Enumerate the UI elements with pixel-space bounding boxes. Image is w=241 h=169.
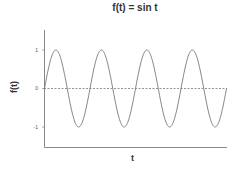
y-tick-label: -1 xyxy=(34,124,39,130)
y-tick-label: 1 xyxy=(35,47,38,53)
plot-area: 10-1 xyxy=(0,0,241,169)
y-ticks: 10-1 xyxy=(34,47,45,130)
y-tick-label: 0 xyxy=(35,85,38,91)
